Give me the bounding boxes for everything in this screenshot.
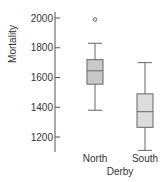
- y-axis-label: Mortality: [7, 25, 18, 63]
- x-axis-label: Derby: [107, 166, 134, 177]
- x-category-label: North: [83, 153, 107, 164]
- y-axis: 12001400160018002000: [31, 12, 60, 152]
- iqr-box: [137, 94, 153, 127]
- x-category-label: South: [132, 153, 158, 164]
- y-tick-label: 1600: [31, 72, 54, 83]
- outlier-point: [93, 18, 97, 22]
- box-north: North: [83, 18, 107, 164]
- y-tick-label: 2000: [31, 13, 54, 24]
- box-plot: 12001400160018002000 NorthSouth Mortalit…: [0, 0, 168, 182]
- y-tick-label: 1800: [31, 42, 54, 53]
- y-tick-label: 1400: [31, 102, 54, 113]
- boxes: NorthSouth: [83, 18, 158, 164]
- box-south: South: [132, 63, 158, 164]
- y-tick-label: 1200: [31, 132, 54, 143]
- iqr-box: [87, 60, 103, 85]
